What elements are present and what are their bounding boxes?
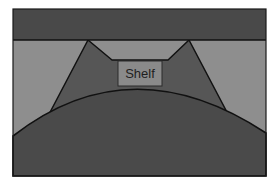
shelf-diagram: Shelf	[0, 0, 279, 189]
shelf-label: Shelf	[125, 66, 155, 81]
top-band	[13, 9, 266, 40]
